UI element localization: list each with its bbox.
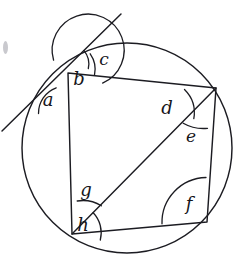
geometry-figure: a b c d e f g h: [0, 0, 250, 274]
figure-canvas: a b c d e f g h: [0, 0, 250, 274]
cyclic-quadrilateral: [68, 73, 216, 234]
angle-arc-g: [77, 201, 101, 206]
tangent-line: [2, 14, 121, 131]
angle-arc-c-inner: [84, 51, 89, 69]
angle-arc-f: [162, 178, 206, 224]
angle-label-f: f: [184, 193, 196, 214]
angle-arc-h: [93, 213, 101, 240]
angle-arc-b: [52, 14, 124, 83]
angle-label-d: d: [161, 97, 173, 118]
angle-label-e: e: [186, 126, 196, 146]
angle-label-b: b: [73, 68, 85, 89]
angle-arc-c: [90, 54, 95, 75]
circle-outline: [22, 43, 232, 253]
angle-label-a: a: [43, 89, 54, 110]
angle-label-g: g: [80, 179, 92, 200]
angle-label-h: h: [77, 214, 89, 235]
angle-label-c: c: [99, 49, 109, 69]
